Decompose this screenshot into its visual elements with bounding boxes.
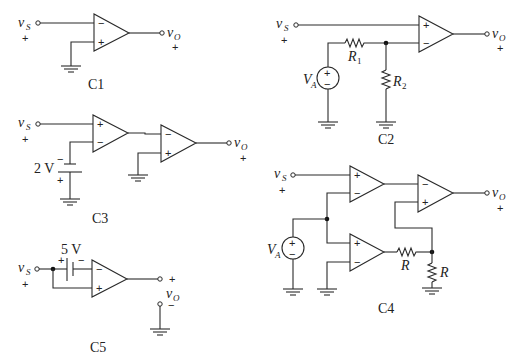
- c5-battery-plus: +: [58, 254, 64, 266]
- c1-output-plus: +: [172, 41, 178, 53]
- c3-output-sub: O: [241, 142, 248, 152]
- c3-battery-minus: −: [57, 153, 63, 165]
- c3-battery-label: 2 V: [34, 161, 54, 176]
- c1-input-plus: +: [22, 32, 28, 44]
- c4-resistor-horizontal: [397, 248, 417, 256]
- c1-caption: C1: [88, 77, 104, 92]
- c2-input-plus: +: [281, 34, 287, 46]
- c2-opamp-plus: +: [423, 19, 429, 31]
- c5-output-terminal-top: [158, 277, 162, 281]
- c5-output-terminal-bottom: [158, 302, 162, 306]
- c4-opamp-right-plus: +: [422, 196, 428, 208]
- c3-opamp1-plus: +: [97, 118, 103, 130]
- circuit-c3: v S + + − 2 V − + − +: [18, 115, 248, 226]
- circuit-c2: v S + + − R 1 R 2 + − V A: [276, 16, 506, 147]
- c2-output-plus: +: [497, 42, 503, 54]
- c4-resistor-ground-icon: [422, 288, 442, 294]
- c2-r1-sub: 1: [357, 56, 362, 66]
- c4-output-terminal: [485, 191, 489, 195]
- c1-opamp-plus: +: [98, 36, 104, 48]
- c3-output-terminal: [227, 141, 231, 145]
- c1-input-terminal: [36, 21, 40, 25]
- c3-battery-ground-icon: [60, 199, 80, 205]
- c5-input-label: v: [18, 260, 25, 275]
- c2-input-sub: S: [284, 23, 289, 33]
- c4-caption: C4: [378, 301, 394, 316]
- c4-opamp-bottom-plus: +: [354, 237, 360, 249]
- c1-opamp-minus: −: [98, 17, 104, 29]
- c2-r1-label: R: [347, 49, 357, 64]
- c5-battery-minus: −: [78, 254, 84, 266]
- c2-resistor-r1: [345, 39, 365, 47]
- c3-input-terminal: [36, 122, 40, 126]
- c4-output-plus: +: [497, 202, 503, 214]
- c5-ground-icon: [150, 329, 170, 335]
- c4-input-terminal: [291, 173, 295, 177]
- c4-source-sub: A: [274, 250, 281, 260]
- c4-input-sub: S: [282, 173, 287, 183]
- c3-opamp2-minus: −: [165, 128, 171, 140]
- c2-source-ground-icon: [318, 122, 338, 128]
- c5-input-sub: S: [26, 267, 31, 277]
- c3-battery-plus: +: [57, 174, 63, 186]
- c3-output-label: v: [234, 135, 241, 150]
- c2-resistor-r2: [382, 70, 390, 89]
- c4-input-plus: +: [279, 184, 285, 196]
- c3-input-sub: S: [26, 122, 31, 132]
- c5-battery-icon: [67, 258, 73, 281]
- c5-output-plus: +: [169, 273, 175, 285]
- c2-r2-label: R: [392, 74, 402, 89]
- c4-r-horizontal-label: R: [400, 258, 410, 273]
- c2-input-terminal: [294, 23, 298, 27]
- c4-opamp-bottom-ground-icon: [317, 289, 337, 295]
- c4-opamp-right-minus: −: [422, 178, 428, 190]
- c2-caption: C2: [378, 132, 394, 147]
- c3-battery-icon: [58, 164, 82, 172]
- c4-opamp-bottom-minus: −: [354, 256, 360, 268]
- c4-input-label: v: [274, 166, 281, 181]
- c3-output-plus: +: [240, 152, 246, 164]
- schematic-canvas: v S + − + v O + C1 v S + + − R: [0, 0, 516, 363]
- c4-opamp-top-minus: −: [354, 187, 360, 199]
- c5-input-plus: +: [22, 278, 28, 290]
- c2-input-label: v: [276, 16, 283, 31]
- c3-opamp1-minus: −: [97, 136, 103, 148]
- c2-opamp-minus: −: [423, 37, 429, 49]
- c3-caption: C3: [92, 211, 108, 226]
- c5-opamp-minus: −: [96, 263, 102, 275]
- c4-resistor-vertical: [428, 263, 436, 282]
- c1-input-sub: S: [26, 22, 31, 32]
- c5-input-terminal: [35, 267, 39, 271]
- circuit-c1: v S + − + v O + C1: [18, 14, 181, 92]
- c3-input-plus: +: [22, 133, 28, 145]
- c3-input-label: v: [18, 115, 25, 130]
- c1-output-terminal: [160, 31, 164, 35]
- c5-opamp-plus: +: [96, 282, 102, 294]
- c4-output-sub: O: [499, 192, 506, 202]
- c4-opamp-top-plus: +: [354, 169, 360, 181]
- c3-opamp2-plus: +: [165, 147, 171, 159]
- c2-source-sub: A: [310, 80, 317, 90]
- c4-r-vertical-label: R: [439, 265, 449, 280]
- c1-output-label: v: [167, 25, 174, 40]
- c5-output-minus: −: [168, 299, 174, 311]
- circuit-c5: v S + 5 V + − − + + v O − C5: [18, 242, 180, 355]
- c2-r2-sub: 2: [402, 81, 407, 91]
- c2-output-terminal: [485, 32, 489, 36]
- c1-ground-icon: [61, 66, 81, 72]
- c1-input-label: v: [18, 15, 25, 30]
- c4-source-minus: −: [289, 248, 295, 260]
- c4-source-ground-icon: [283, 289, 303, 295]
- c3-opamp2-ground-icon: [128, 175, 148, 181]
- circuit-c4: v S + + − + − V A + −: [267, 166, 506, 316]
- c2-r2-ground-icon: [376, 122, 396, 128]
- c5-caption: C5: [90, 340, 106, 355]
- c4-output-label: v: [492, 185, 499, 200]
- c2-output-label: v: [492, 26, 499, 41]
- c2-source-minus: −: [324, 78, 330, 90]
